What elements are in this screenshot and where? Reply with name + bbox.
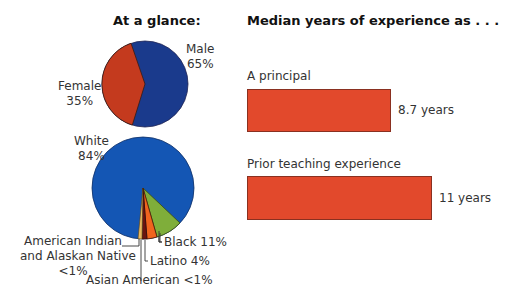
female-name: Female [58, 79, 101, 94]
female-label: Female 35% [58, 79, 101, 109]
male-label: Male 65% [186, 42, 214, 72]
principal-label: A principal [247, 69, 311, 84]
female-pct: 35% [58, 94, 101, 109]
white-label: White 84% [74, 134, 109, 164]
principal-value: 8.7 years [398, 103, 454, 118]
teaching-value: 11 years [439, 191, 491, 206]
white-pct: 84% [74, 149, 109, 164]
american-indian-line2: and Alaskan Native [20, 249, 126, 264]
black-label: Black 11% [164, 235, 227, 250]
latino-label: Latino 4% [150, 254, 210, 269]
american-indian-line1: American Indian [20, 234, 126, 249]
gender-pie [102, 41, 188, 127]
male-name: Male [186, 42, 214, 57]
white-name: White [74, 134, 109, 149]
median-years-title: Median years of experience as . . . [247, 13, 499, 28]
male-pct: 65% [186, 57, 214, 72]
teaching-bar [247, 176, 432, 220]
asian-label: Asian American <1% [86, 273, 213, 288]
teaching-label: Prior teaching experience [247, 157, 401, 172]
principal-bar [247, 89, 391, 132]
